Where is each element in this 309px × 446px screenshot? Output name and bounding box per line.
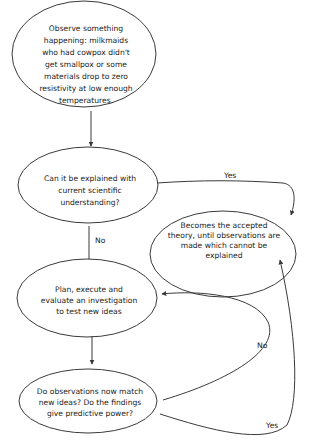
node-observe-line-0: Observe something xyxy=(49,24,124,33)
node-accepted-line-0: Becomes the accepted xyxy=(181,221,268,230)
edge-match-no-label: No xyxy=(257,341,268,350)
edge-explain-yes xyxy=(157,181,294,215)
node-plan: Plan, execute and evaluate an investigat… xyxy=(17,259,157,337)
node-observe-line-4: materials drop to zero xyxy=(44,72,128,81)
node-match: Do observations now match new ideas? Do … xyxy=(19,369,157,433)
node-observe-line-1: happening: milkmaids xyxy=(44,36,128,45)
node-match-line-0: Do observations now match xyxy=(37,387,143,396)
node-plan-line-1: evaluate an investigation xyxy=(41,296,138,305)
node-observe: Observe something happening: milkmaids w… xyxy=(12,1,156,107)
node-observe-line-2: who had cowpox didn't xyxy=(42,48,130,57)
node-plan-line-2: to test new ideas xyxy=(56,307,121,316)
node-observe-line-6: temperatures. xyxy=(59,96,113,105)
node-explain-line-2: understanding? xyxy=(60,198,119,207)
node-observe-line-5: resistivity at low enough xyxy=(39,84,132,93)
node-accepted-line-1: theory, until observations are xyxy=(168,231,281,240)
edge-explain-yes-label: Yes xyxy=(223,171,236,180)
node-observe-line-3: get smallpox or some xyxy=(45,60,127,69)
node-accepted-line-3: explained xyxy=(205,251,242,260)
node-accepted: Becomes the accepted theory, until obser… xyxy=(150,211,296,297)
node-match-line-2: give predictive power? xyxy=(47,409,133,418)
node-accepted-line-2: made which cannot be xyxy=(181,241,268,250)
node-plan-line-0: Plan, execute and xyxy=(55,285,123,294)
node-match-line-1: new ideas? Do the findings xyxy=(39,398,142,407)
node-explain-line-1: current scientific xyxy=(58,186,122,195)
edge-explain-no-label: No xyxy=(95,236,106,245)
scientific-method-flowchart: Observe something happening: milkmaids w… xyxy=(0,0,309,446)
node-explain-line-0: Can it be explained with xyxy=(44,174,136,183)
edge-match-no xyxy=(162,293,270,400)
edge-match-yes-label: Yes xyxy=(265,421,278,430)
node-explain: Can it be explained with current scienti… xyxy=(18,147,158,223)
